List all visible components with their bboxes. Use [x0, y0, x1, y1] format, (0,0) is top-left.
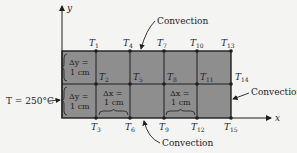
- node-label-t6: T6: [125, 122, 135, 133]
- dy-top-line2: 1 cm: [70, 68, 90, 77]
- node-label-t12: T12: [191, 122, 205, 133]
- node-label-t9: T9: [159, 122, 169, 133]
- node-label-t14: T14: [235, 72, 249, 83]
- node-label-t7: T7: [157, 38, 167, 49]
- x-axis-label: x: [275, 113, 280, 123]
- dx-right-line1: Δx =: [170, 89, 190, 98]
- dy-bottom-line1: Δy =: [69, 92, 89, 101]
- finite-difference-grid-diagram: y x T1 T4 T7 T10 T13 T2 T5 T8 T11 T14 T3…: [0, 0, 297, 153]
- left-boundary-temperature: T = 250°C: [6, 96, 54, 106]
- dy-bottom-line2: 1 cm: [70, 102, 90, 111]
- dx-left-line1: Δx =: [103, 89, 123, 98]
- convection-label-right: Convection: [251, 87, 297, 97]
- node-label-t13: T13: [221, 38, 235, 49]
- y-axis-label: y: [66, 3, 73, 13]
- convection-arrow-top: [141, 21, 155, 49]
- node-label-t15: T15: [224, 122, 238, 133]
- convection-label-bottom: Convection: [162, 138, 213, 148]
- dx-left-line2: 1 cm: [104, 98, 124, 107]
- node-label-t4: T4: [123, 38, 133, 49]
- node-label-t3: T3: [91, 122, 101, 133]
- convection-arrow-bottom: [144, 121, 160, 143]
- convection-label-top: Convection: [157, 16, 208, 26]
- dy-top-line1: Δy =: [69, 58, 89, 67]
- convection-arrow-right: [233, 93, 249, 99]
- dx-right-line2: 1 cm: [171, 98, 191, 107]
- node-label-t10: T10: [190, 38, 204, 49]
- node-label-t1: T1: [89, 38, 99, 49]
